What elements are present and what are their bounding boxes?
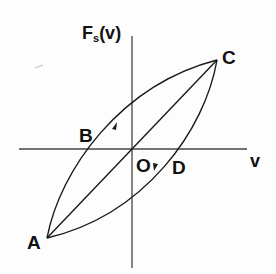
hysteresis-diagram: Fs(v) v C A B O D xyxy=(0,0,276,274)
x-axis-label: v xyxy=(250,152,260,170)
y-label-rest: (v) xyxy=(99,23,121,43)
point-label-a: A xyxy=(27,233,41,252)
arrow-upper-icon xyxy=(112,122,117,130)
y-axis-label: Fs(v) xyxy=(82,24,121,44)
point-label-d: D xyxy=(172,158,186,177)
point-label-b: B xyxy=(79,126,93,145)
point-label-c: C xyxy=(222,48,236,67)
point-label-o: O xyxy=(136,156,151,175)
diagram-graphics xyxy=(0,0,276,274)
y-label-main: F xyxy=(82,23,93,43)
arrow-lower-icon xyxy=(153,163,158,171)
stray-mark xyxy=(35,65,43,68)
